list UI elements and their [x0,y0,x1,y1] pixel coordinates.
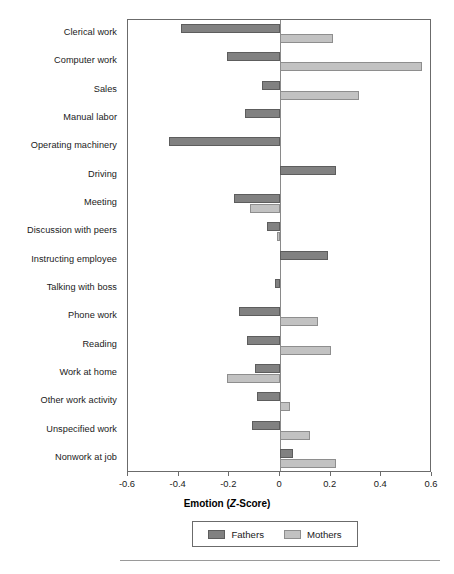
legend-swatch-fathers-icon [208,530,225,539]
category-label: Sales [94,84,117,94]
x-axis-tick [431,472,432,476]
category-label: Computer work [54,55,117,65]
legend-entry-fathers: Fathers [208,529,264,540]
x-axis-tick [380,472,381,476]
plot-inner [128,20,430,471]
bar-mothers-1 [280,62,422,71]
category-label: Phone work [68,310,117,320]
category-label: Nonwork at job [55,452,117,462]
x-axis-tick [178,472,179,476]
chart-legend: FathersMothers [192,521,358,547]
bar-fathers-3 [245,109,280,118]
bar-mothers-12 [227,374,280,383]
category-label: Work at home [59,367,117,377]
x-axis-title-suffix: -Score) [236,498,270,509]
bar-fathers-1 [227,52,280,61]
legend-swatch-mothers-icon [284,530,301,539]
category-label: Unspecified work [46,424,117,434]
x-axis-tick [279,472,280,476]
bar-fathers-6 [234,194,280,203]
category-label: Driving [88,169,117,179]
legend-label: Fathers [231,529,264,540]
x-axis-tick-label: 0 [276,478,281,489]
category-label: Manual labor [63,112,117,122]
x-axis-title-prefix: Emotion ( [184,498,230,509]
bar-mothers-14 [280,431,310,440]
category-label: Talking with boss [47,282,117,292]
bar-fathers-11 [247,336,280,345]
x-axis-tick-label: -0.6 [119,478,135,489]
plot-area [127,19,431,472]
x-axis-tick-label: -0.4 [170,478,186,489]
x-axis-title: Emotion (Z-Score) [0,498,454,509]
bar-fathers-10 [239,307,280,316]
category-label: Clerical work [64,27,117,37]
x-axis-tick-label: 0.6 [424,478,437,489]
category-label: Other work activity [40,395,117,405]
x-axis-tick-label: -0.2 [220,478,236,489]
category-label: Reading [82,339,117,349]
bar-mothers-7 [277,232,280,241]
x-axis-tick-label: 0.4 [374,478,387,489]
bar-fathers-4 [169,137,280,146]
footer-divider [120,560,440,561]
x-axis-tick [330,472,331,476]
bar-fathers-9 [275,279,280,288]
bar-fathers-13 [257,392,280,401]
category-label: Operating machinery [31,140,117,150]
bar-fathers-7 [267,222,280,231]
bar-fathers-5 [280,166,336,175]
bar-fathers-14 [252,421,280,430]
bar-fathers-15 [280,449,293,458]
x-axis-tick [228,472,229,476]
legend-entry-mothers: Mothers [284,529,342,540]
bar-mothers-2 [280,91,359,100]
bar-mothers-10 [280,317,318,326]
bar-fathers-0 [181,24,280,33]
legend-label: Mothers [307,529,342,540]
bar-fathers-8 [280,251,328,260]
x-axis-tick [127,472,128,476]
bar-mothers-0 [280,34,333,43]
bar-fathers-12 [255,364,280,373]
category-axis-labels: Clerical workComputer workSalesManual la… [0,19,123,472]
bar-mothers-15 [280,459,336,468]
bar-mothers-13 [280,402,290,411]
category-label: Meeting [84,197,117,207]
chart-figure: Clerical workComputer workSalesManual la… [0,0,454,574]
bar-mothers-11 [280,346,331,355]
bar-fathers-2 [262,81,280,90]
bar-mothers-6 [250,204,280,213]
category-label: Discussion with peers [27,225,117,235]
category-label: Instructing employee [31,254,117,264]
x-axis-tick-label: 0.2 [323,478,336,489]
